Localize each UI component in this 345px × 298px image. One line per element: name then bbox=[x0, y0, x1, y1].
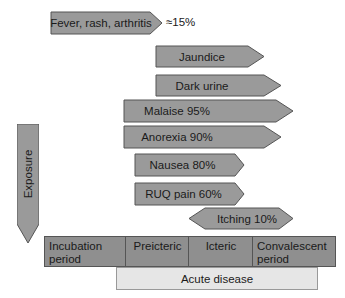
symptom-label: Dark urine bbox=[156, 75, 248, 96]
symptom-label: Nausea 80% bbox=[135, 154, 230, 176]
symptom-label: Itching 10% bbox=[207, 208, 287, 229]
symptom-arrow-itching: Itching 10% bbox=[189, 208, 294, 229]
symptom-arrow-jaundice: Jaundice bbox=[156, 46, 265, 67]
phase-icteric: Icteric bbox=[189, 237, 253, 266]
symptom-arrow-dark-urine: Dark urine bbox=[156, 75, 282, 96]
symptom-arrow-nausea: Nausea 80% bbox=[135, 154, 245, 176]
phase-convalescent: Convalescent period bbox=[253, 237, 335, 266]
phase-incubation: Incubation period bbox=[45, 237, 126, 266]
acute-disease-box: Acute disease bbox=[116, 267, 318, 290]
symptom-label: Fever, rash, arthritis bbox=[51, 12, 151, 34]
exposure-label: Exposure bbox=[22, 150, 34, 199]
symptom-arrow-anorexia: Anorexia 90% bbox=[124, 126, 282, 148]
symptom-label: Jaundice bbox=[156, 46, 248, 67]
symptom-label: Malaise 95% bbox=[124, 100, 230, 122]
symptom-label: RUQ pain 60% bbox=[135, 183, 232, 205]
phase-bar: Incubation period Preicteric Icteric Con… bbox=[44, 236, 336, 267]
symptom-arrow-fever: Fever, rash, arthritis bbox=[51, 12, 163, 34]
exposure-arrow: Exposure bbox=[17, 124, 39, 244]
symptom-arrow-malaise: Malaise 95% bbox=[124, 100, 294, 122]
phase-preicteric: Preicteric bbox=[126, 237, 189, 266]
fever-percentage-note: ≈15% bbox=[166, 16, 195, 28]
symptom-label: Anorexia 90% bbox=[124, 126, 230, 148]
symptom-arrow-ruq-pain: RUQ pain 60% bbox=[135, 183, 245, 205]
